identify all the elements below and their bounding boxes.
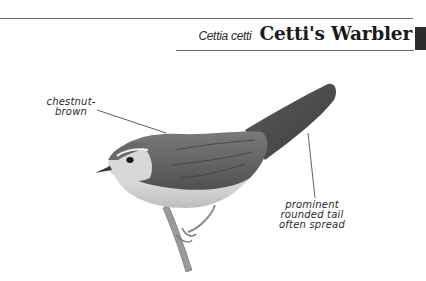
annotation-rounded-tail: prominent rounded tail often spread: [268, 200, 356, 230]
warbler-illustration: [0, 0, 426, 281]
twig: [163, 205, 192, 272]
eye: [126, 157, 133, 163]
annotation-line: often spread: [268, 220, 356, 230]
annotation-chestnut-brown: chestnut- brown: [36, 97, 106, 117]
annotation-line: brown: [36, 107, 106, 117]
